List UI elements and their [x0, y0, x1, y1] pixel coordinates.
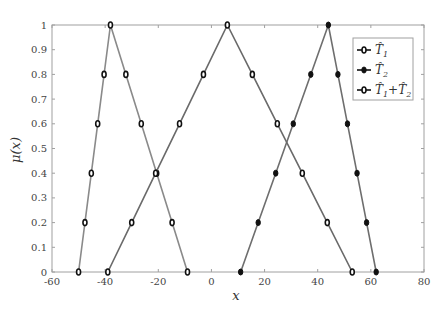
x-tick-label: 60 [364, 276, 377, 287]
data-point-marker [362, 87, 366, 93]
data-point-marker [108, 22, 112, 28]
data-point-marker [83, 220, 87, 226]
data-point-marker [275, 121, 279, 127]
x-axis-label: x [232, 288, 240, 303]
data-point-marker [256, 220, 260, 226]
y-tick-label: 1 [41, 20, 47, 31]
chart: -60-40-20020406080 00.10.20.30.40.50.60.… [0, 0, 444, 312]
y-tick-label: 0.5 [31, 143, 47, 154]
y-tick-label: 0.9 [31, 44, 47, 55]
data-point-marker [374, 269, 378, 275]
data-point-marker [170, 220, 174, 226]
data-point-marker [355, 170, 359, 176]
series-line [79, 25, 188, 272]
data-point-marker [89, 170, 93, 176]
data-point-marker [325, 220, 329, 226]
y-tick-label: 0 [41, 267, 47, 278]
x-tick-label: -60 [44, 276, 60, 287]
x-tick-label: -40 [97, 276, 113, 287]
data-point-marker [362, 67, 366, 73]
x-tick-label: 40 [311, 276, 324, 287]
series-1 [77, 22, 190, 275]
data-point-marker [309, 71, 313, 77]
data-point-marker [106, 269, 110, 275]
y-axis-label: μ(x) [8, 137, 23, 163]
data-point-marker [350, 269, 354, 275]
data-point-marker [225, 22, 229, 28]
x-tick-label: 0 [208, 276, 214, 287]
data-point-marker [201, 71, 205, 77]
data-point-marker [291, 121, 295, 127]
data-point-marker [130, 220, 134, 226]
plot-series [77, 22, 379, 275]
x-tick-label: -20 [150, 276, 166, 287]
data-point-marker [77, 269, 81, 275]
data-point-marker [274, 170, 278, 176]
y-tick-label: 0.2 [31, 217, 47, 228]
data-point-marker [186, 269, 190, 275]
y-tick-label: 0.4 [31, 168, 47, 179]
y-tick-label: 0.7 [31, 94, 47, 105]
y-tick-label: 0.6 [31, 118, 47, 129]
data-point-marker [96, 121, 100, 127]
legend: T̂1T̂2T̂1+T̂2 [353, 38, 413, 100]
data-point-marker [336, 71, 340, 77]
y-tick-label: 0.8 [31, 69, 47, 80]
data-point-marker [178, 121, 182, 127]
legend-label: T̂1+T̂2 [375, 82, 411, 99]
series-3 [106, 22, 354, 275]
data-point-marker [139, 121, 143, 127]
data-point-marker [326, 22, 330, 28]
data-point-marker [238, 269, 242, 275]
y-tick-label: 0.3 [31, 192, 47, 203]
data-point-marker [362, 47, 366, 53]
data-point-marker [364, 220, 368, 226]
x-tick-label: 80 [418, 276, 431, 287]
data-point-marker [345, 121, 349, 127]
data-point-marker [102, 71, 106, 77]
y-tick-label: 0.1 [31, 242, 47, 253]
data-point-marker [124, 71, 128, 77]
data-point-marker [250, 71, 254, 77]
data-point-marker [300, 170, 304, 176]
data-point-marker [154, 170, 158, 176]
x-tick-label: 20 [258, 276, 271, 287]
